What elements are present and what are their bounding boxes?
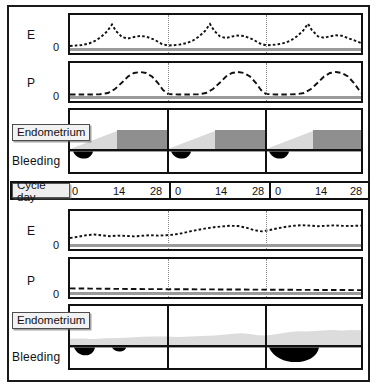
cycle-tick-28: 28 <box>350 185 362 197</box>
top-estrogen-label: E <box>27 28 35 42</box>
cycle-day-segment-2: 0 14 28 <box>169 183 269 198</box>
cycle-divider-1 <box>167 306 169 368</box>
cycle-tick-28: 28 <box>252 185 264 197</box>
cycle-day-axis: Cycle day 0 14 28 0 14 28 0 14 28 <box>10 181 370 200</box>
cycle-tick-14: 14 <box>113 185 125 197</box>
bottom-estrogen-panel <box>68 209 363 251</box>
cycle-day-segment-3: 0 14 28 <box>269 183 368 198</box>
figure-root: E 0 P 0 <box>0 0 382 387</box>
bottom-progesterone-label: P <box>27 274 35 288</box>
bottom-endometrium-bleeding-graphics <box>70 306 361 368</box>
top-estrogen-zero-label: 0 <box>53 41 59 53</box>
top-estrogen-baseline <box>70 48 361 51</box>
top-progesterone-label: P <box>27 76 35 90</box>
bottom-estrogen-label: E <box>27 224 35 238</box>
cycle-tick-14: 14 <box>215 185 227 197</box>
bottom-endometrium-boxlabel: Endometrium <box>12 312 90 329</box>
top-estrogen-panel <box>68 13 363 55</box>
bottom-estrogen-zero-label: 0 <box>53 239 59 251</box>
top-progesterone-zero-label: 0 <box>53 90 59 102</box>
top-bleeding-label: Bleeding <box>12 154 60 168</box>
bottom-progesterone-panel <box>68 257 363 299</box>
bottom-progesterone-baseline <box>70 292 361 295</box>
cycle-tick-0: 0 <box>175 185 181 197</box>
cycle-tick-0: 0 <box>72 185 78 197</box>
top-progesterone-baseline <box>70 96 361 99</box>
cycle-day-title: Cycle day <box>12 183 70 198</box>
top-endometrium-bleeding-panel <box>68 108 363 174</box>
bottom-bleeding-label: Bleeding <box>12 350 60 364</box>
cycle-tick-0: 0 <box>275 185 281 197</box>
cycle-tick-28: 28 <box>150 185 162 197</box>
top-endometrium-bleeding-graphics <box>70 110 361 172</box>
cycle-divider-1 <box>167 110 169 172</box>
top-progesterone-panel <box>68 61 363 103</box>
bottom-progesterone-zero-label: 0 <box>53 288 59 300</box>
cycle-tick-14: 14 <box>315 185 327 197</box>
bottom-endometrium-bleeding-panel <box>68 304 363 370</box>
bottom-estrogen-baseline <box>70 244 361 247</box>
top-endometrium-boxlabel: Endometrium <box>12 124 90 141</box>
cycle-divider-2 <box>265 306 267 368</box>
cycle-divider-2 <box>265 110 267 172</box>
